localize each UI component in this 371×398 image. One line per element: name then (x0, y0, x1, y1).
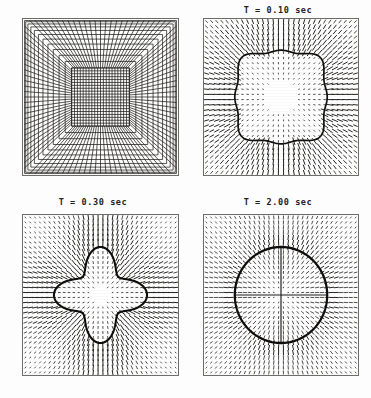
plot-frame-t-200 (203, 214, 359, 376)
figure-canvas: T = 0.10 sec T = 0.30 sec T = 2.00 sec (0, 0, 371, 398)
panel-t-010: T = 0.10 sec (185, 0, 371, 198)
panel-t-030: T = 0.30 sec (0, 196, 186, 398)
panel-t-030-title: T = 0.30 sec (0, 197, 186, 207)
vector-field-plot-t-200 (204, 215, 358, 375)
plot-frame-t-030 (22, 214, 179, 376)
plot-frame-t-010 (203, 18, 359, 176)
panel-t-200-title: T = 2.00 sec (185, 197, 371, 207)
plot-frame-mesh-initial (22, 18, 179, 176)
mesh-plot (23, 19, 178, 175)
vector-field-plot-t-030 (23, 215, 178, 375)
panel-t-010-title: T = 0.10 sec (185, 5, 371, 15)
panel-t-200: T = 2.00 sec (185, 196, 371, 398)
panel-mesh-initial (0, 0, 186, 198)
vector-field-plot-t-010 (204, 19, 358, 175)
interface-contour-t-010 (235, 50, 327, 144)
